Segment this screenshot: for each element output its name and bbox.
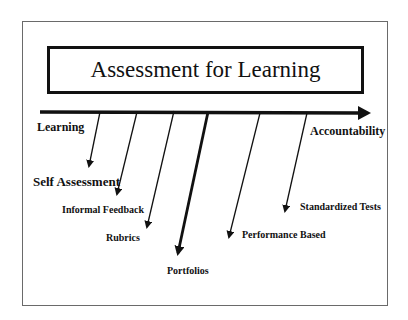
- arrow-standardized-tests: [285, 113, 307, 211]
- arrow-self-assessment: [89, 112, 100, 166]
- accountability-label: Accountability: [310, 124, 385, 139]
- arrow-performance-based: [229, 113, 260, 237]
- arrow-portfolios: [178, 112, 208, 253]
- portfolios-label: Portfolios: [167, 265, 209, 276]
- learning-label: Learning: [37, 120, 84, 135]
- arrow-rubrics: [147, 111, 174, 227]
- standardized-tests-label: Standardized Tests: [300, 201, 381, 212]
- rubrics-label: Rubrics: [106, 232, 140, 243]
- informal-feedback-label: Informal Feedback: [62, 204, 144, 215]
- self-assessment-label: Self Assessment: [33, 174, 120, 190]
- performance-based-label: Performance Based: [242, 229, 326, 240]
